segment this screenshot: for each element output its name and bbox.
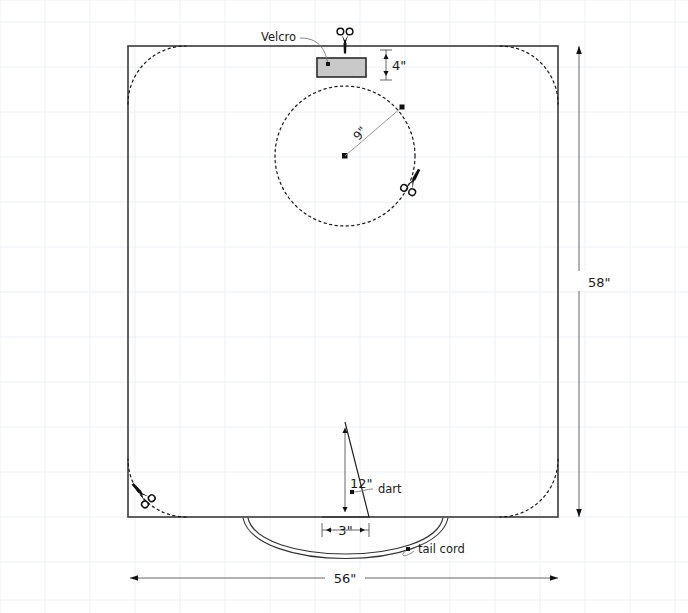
overall-height-label: 58" (588, 275, 611, 290)
tail-cord-label: tail cord (418, 542, 465, 556)
velcro-offset-dimension: 4" (380, 50, 406, 80)
velcro-group: Velcro (261, 30, 366, 77)
scissors-icon-top (337, 28, 353, 53)
scissors-icon-circle (400, 166, 427, 197)
overall-width-label: 56" (334, 571, 357, 586)
tail-cord-group: tail cord (243, 518, 465, 559)
velcro-offset-label: 4" (392, 58, 406, 73)
corner-cut-lines (128, 46, 558, 517)
pattern-diagram: 9" Velcro 4" 12" dart 3" (0, 0, 688, 613)
dart-triangle (322, 422, 369, 517)
fabric-panel-outline (128, 46, 558, 517)
overall-width-dimension: 56" (130, 569, 558, 587)
corner-cut-top-right (500, 46, 558, 104)
scissors-icon-corner (127, 479, 157, 509)
background-grid (0, 0, 688, 613)
corner-cut-bottom-right (500, 459, 558, 517)
circle-cutout-group: 9" (275, 86, 415, 226)
velcro-label: Velcro (261, 30, 296, 44)
dart-label: dart (378, 482, 402, 496)
dart-height-label: 12" (350, 476, 373, 491)
diagram-canvas: 9" Velcro 4" 12" dart 3" (0, 0, 688, 613)
dart-group: 12" dart (322, 422, 402, 517)
corner-cut-top-left (128, 46, 186, 104)
radius-dimension-label: 9" (350, 124, 369, 143)
velcro-leader-dot (326, 62, 330, 66)
dart-width-dimension: 3" (322, 523, 369, 538)
radius-end-dot (400, 105, 405, 110)
overall-height-dimension: 58" (569, 46, 611, 517)
circle-center-dot (342, 153, 348, 159)
dart-width-label: 3" (338, 523, 352, 538)
velcro-patch (317, 58, 366, 77)
